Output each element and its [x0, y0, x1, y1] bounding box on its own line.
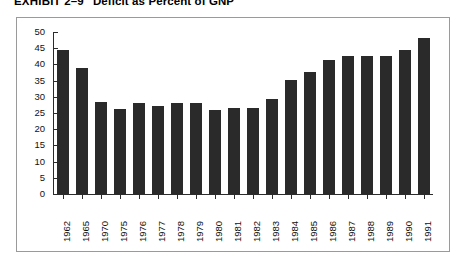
x-axis-tick-mark: [82, 194, 83, 199]
x-axis-tick-mark: [367, 194, 368, 199]
bar-fill: [266, 99, 278, 194]
bar-fill: [418, 38, 430, 194]
y-axis-tick-label: 25: [34, 106, 45, 120]
x-axis-tick-mark: [63, 194, 64, 199]
x-axis-line: [53, 194, 433, 195]
bar-chart-plot: 05101520253035404550 1962196519701975197…: [17, 18, 449, 251]
x-axis-tick-label: 1991: [422, 228, 462, 242]
y-axis-tick-label: 50: [34, 25, 45, 39]
bar-fill: [114, 109, 126, 194]
bar-fill: [171, 103, 183, 194]
y-axis-tick-label: 10: [34, 155, 45, 169]
bar-fill: [361, 56, 373, 194]
x-axis-tick-mark: [291, 194, 292, 199]
y-axis-tick-mark: [53, 194, 58, 195]
y-axis-tick-label: 5: [40, 171, 45, 185]
x-axis-tick-mark: [196, 194, 197, 199]
bar-fill: [133, 103, 145, 194]
bar-group: [54, 32, 433, 194]
bar-fill: [57, 50, 69, 194]
figure-frame: 05101520253035404550 1962196519701975197…: [16, 17, 450, 252]
bar-fill: [247, 108, 259, 194]
exhibit-number: EXHIBIT 2–9: [14, 0, 84, 7]
bar-fill: [95, 102, 107, 194]
bar-fill: [190, 103, 202, 194]
x-axis-tick-mark: [158, 194, 159, 199]
x-axis-tick-mark: [405, 194, 406, 199]
bar-fill: [285, 80, 297, 194]
x-axis-tick-mark: [234, 194, 235, 199]
bar-fill: [342, 56, 354, 194]
x-axis-tick-mark: [120, 194, 121, 199]
y-axis-tick-label: 35: [34, 74, 45, 88]
y-axis-tick-label: 0: [40, 187, 45, 201]
exhibit-title: Deficit as Percent of GNP: [93, 0, 234, 7]
x-axis-tick-mark: [386, 194, 387, 199]
bar-fill: [399, 50, 411, 194]
x-axis-tick-mark: [310, 194, 311, 199]
x-axis-tick-mark: [139, 194, 140, 199]
x-axis-tick-mark: [329, 194, 330, 199]
bar-fill: [209, 110, 221, 194]
exhibit-caption: EXHIBIT 2–9 Deficit as Percent of GNP: [14, 0, 234, 9]
y-axis-tick-label: 15: [34, 138, 45, 152]
x-axis-tick-mark: [101, 194, 102, 199]
bar-fill: [304, 72, 316, 194]
x-axis-tick-mark: [348, 194, 349, 199]
bar-fill: [323, 60, 335, 194]
y-axis-tick-label: 30: [34, 90, 45, 104]
y-axis-tick-label: 20: [34, 122, 45, 136]
x-axis-tick-mark: [272, 194, 273, 199]
x-axis-tick-mark: [253, 194, 254, 199]
bar-fill: [76, 68, 88, 194]
x-axis-tick-mark: [177, 194, 178, 199]
y-axis-tick-label: 40: [34, 57, 45, 71]
bar-fill: [152, 106, 164, 194]
x-axis-tick-mark: [424, 194, 425, 199]
y-axis-tick-label: 45: [34, 41, 45, 55]
x-axis-tick-mark: [215, 194, 216, 199]
bar-fill: [380, 56, 392, 194]
bar-fill: [228, 108, 240, 194]
